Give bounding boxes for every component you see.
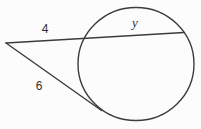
tangent-length-label: 6: [36, 79, 43, 93]
secant-external-label: 4: [42, 22, 49, 36]
diagram-canvas: 4 y 6: [0, 0, 201, 129]
tangent-line: [6, 43, 102, 111]
chord-label: y: [130, 15, 138, 30]
geometry-diagram: 4 y 6: [0, 0, 201, 129]
secant-line: [6, 33, 184, 44]
